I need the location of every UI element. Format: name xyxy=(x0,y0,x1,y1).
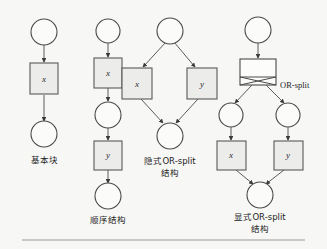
transition-y-label: y xyxy=(285,150,290,160)
workflow-structures-diagram: x 基本块 x y 顺序结构 x xyxy=(0,0,327,249)
edge-y-to-end xyxy=(176,99,198,123)
or-split-gate xyxy=(240,59,276,85)
panel-implicit-or-split: x y 隐式OR-split 结构 xyxy=(122,18,217,178)
left-place xyxy=(219,103,243,127)
panel-caption-basic-block: 基本块 xyxy=(31,155,58,165)
end-place xyxy=(157,123,183,149)
panel-caption-sequence: 顺序结构 xyxy=(90,215,126,225)
or-split-callout-label: OR-split xyxy=(280,80,310,90)
panel-explicit-or-split: OR-split x y 显式OR-split 结构 xyxy=(217,17,310,234)
transition-x-label: x xyxy=(134,79,139,89)
start-place xyxy=(96,19,120,43)
end-place xyxy=(31,121,57,147)
right-place xyxy=(276,103,300,127)
figure-canvas: x 基本块 x y 顺序结构 x xyxy=(0,0,327,249)
edge-start-to-x xyxy=(143,42,166,67)
edge-start-to-y xyxy=(174,42,195,67)
transition-y-label: y xyxy=(105,150,110,160)
start-place xyxy=(245,17,271,43)
panel-basic-block: x 基本块 xyxy=(30,19,58,165)
transition-x-label: x xyxy=(41,74,46,84)
panel-caption-implicit-line2: 结构 xyxy=(161,168,179,178)
transition-x-label: x xyxy=(228,150,233,160)
end-place xyxy=(95,183,121,209)
edge-y-to-end xyxy=(266,170,284,184)
edge-gate-to-left-place xyxy=(235,85,252,103)
end-place xyxy=(247,182,273,208)
start-place xyxy=(31,19,57,45)
panel-caption-explicit-line1: 显式OR-split xyxy=(234,212,286,222)
transition-x-label: x xyxy=(105,68,110,78)
edge-x-to-end xyxy=(141,99,163,123)
panel-caption-explicit-line2: 结构 xyxy=(251,224,269,234)
panel-sequence: x y 顺序结构 xyxy=(90,19,126,225)
start-place xyxy=(157,18,183,44)
panel-caption-implicit-line1: 隐式OR-split xyxy=(144,156,196,166)
middle-place xyxy=(95,102,121,128)
transition-y-label: y xyxy=(199,79,204,89)
edge-x-to-end xyxy=(236,170,253,184)
